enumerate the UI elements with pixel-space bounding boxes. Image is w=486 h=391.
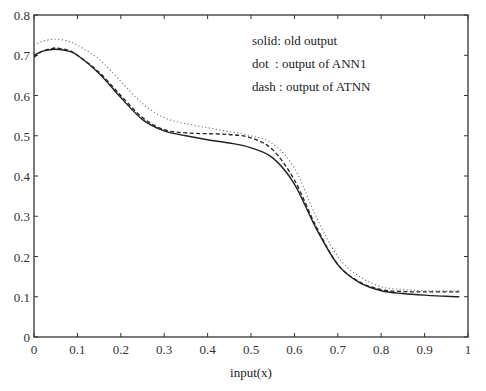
x-tick-label: 0.2 [113,342,129,357]
x-tick-label: 0 [31,342,38,357]
x-tick-label: 1 [465,342,472,357]
x-tick-label: 0.1 [69,342,85,357]
x-axis-ticks: 00.10.20.30.40.50.60.70.80.91 [31,15,472,357]
legend-entry-dot: dot : output of ANN1 [252,56,366,71]
series-dash-line [34,48,459,292]
legend: solid: old output dot : output of ANN1 d… [252,33,371,94]
series-solid-line [34,49,459,297]
y-tick-label: 0.1 [14,290,30,305]
x-tick-label: 0.4 [199,342,216,357]
y-tick-label: 0.7 [14,48,31,63]
x-tick-label: 0.6 [286,342,303,357]
x-axis-label: input(x) [230,365,272,380]
y-tick-label: 0.4 [14,169,31,184]
y-tick-label: 0.2 [14,250,30,265]
y-tick-label: 0.6 [14,89,31,104]
x-tick-label: 0.5 [243,342,259,357]
line-chart: 00.10.20.30.40.50.60.70.80.91 00.10.20.3… [0,0,486,391]
legend-entry-solid: solid: old output [252,33,338,48]
x-tick-label: 0.9 [416,342,432,357]
x-tick-label: 0.3 [156,342,172,357]
y-tick-label: 0 [24,330,31,345]
series-dot-line [34,39,459,291]
series-lines [34,39,459,297]
legend-entry-dash: dash : output of ATNN [252,79,371,94]
plot-area [34,15,468,337]
y-tick-label: 0.3 [14,209,30,224]
x-tick-label: 0.7 [330,342,347,357]
axes-box [34,15,468,337]
y-tick-label: 0.5 [14,129,30,144]
y-tick-label: 0.8 [14,8,30,23]
x-tick-label: 0.8 [373,342,389,357]
